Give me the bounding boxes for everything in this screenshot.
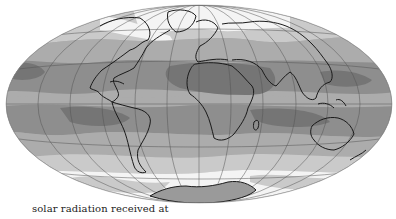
figure-caption: solar radiation received at [32, 203, 169, 214]
world-map [0, 0, 396, 206]
radiation-bands [0, 0, 396, 206]
